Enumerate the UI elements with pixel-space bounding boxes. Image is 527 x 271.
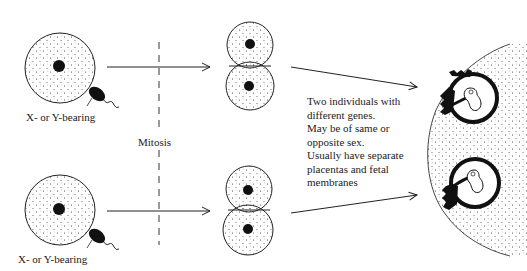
twin-description: Two individuals with different genes. Ma… [307, 95, 404, 190]
two-cell-embryo-bottom [223, 166, 273, 255]
description-line: Usually have separate [307, 149, 404, 163]
sperm-bottom-icon [86, 226, 119, 250]
two-cell-embryo-top [226, 22, 274, 110]
arrow-top-to-uterus [291, 67, 417, 87]
mitosis-label: Mitosis [138, 136, 171, 150]
description-line: opposite sex. [307, 136, 404, 150]
sperm-top-icon [86, 84, 119, 108]
sperm-label-top: X- or Y-bearing [26, 111, 95, 125]
description-line: membranes [307, 176, 404, 190]
twinning-diagram [0, 0, 527, 271]
ovum-bottom [25, 175, 95, 245]
description-line: placentas and fetal [307, 163, 404, 177]
arrow-bottom-to-uterus [291, 195, 417, 213]
description-line: different genes. [307, 109, 404, 123]
description-line: Two individuals with [307, 95, 404, 109]
description-line: May be of same or [307, 122, 404, 136]
sperm-label-bottom: X- or Y-bearing [18, 253, 87, 267]
ovum-top [25, 33, 95, 103]
